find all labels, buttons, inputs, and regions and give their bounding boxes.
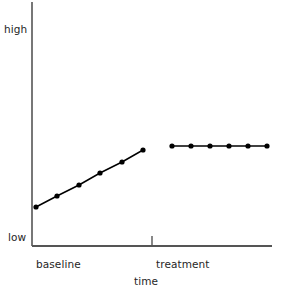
x-axis-title: time (134, 276, 158, 287)
data-point (226, 143, 231, 148)
data-point (188, 143, 193, 148)
y-axis-label-high: high (4, 24, 27, 35)
baseline-trend-line (36, 150, 143, 207)
data-point (97, 170, 102, 175)
series-treatment (169, 143, 269, 148)
data-point (140, 147, 145, 152)
series-baseline (33, 147, 145, 209)
data-point (207, 143, 212, 148)
phase-label-treatment: treatment (156, 259, 210, 270)
data-point (119, 159, 124, 164)
y-axis-label-low: low (8, 232, 26, 243)
data-point (76, 182, 81, 187)
data-point (54, 193, 59, 198)
chart-figure: high low baseline treatment time (0, 0, 296, 290)
data-point (264, 143, 269, 148)
data-point (33, 204, 38, 209)
chart-plot-area (0, 0, 296, 290)
data-point (169, 143, 174, 148)
data-point (245, 143, 250, 148)
phase-label-baseline: baseline (36, 259, 81, 270)
